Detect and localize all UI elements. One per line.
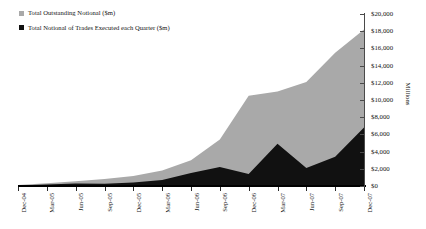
y-axis-tick <box>360 48 365 49</box>
legend-item-trades-executed: Total Notional of Trades Executed each Q… <box>19 25 170 32</box>
x-axis-tick <box>191 187 192 191</box>
y-axis-tick <box>360 66 365 67</box>
y-axis-tick-label: $12,000 <box>371 79 393 86</box>
x-axis-tick <box>76 187 77 191</box>
y-axis-tick-label: $10,000 <box>371 97 393 104</box>
x-axis-tick <box>249 187 250 191</box>
x-axis-tick <box>105 187 106 191</box>
y-axis-tick-label: $8,000 <box>371 114 390 121</box>
y-axis-tick <box>360 100 365 101</box>
x-axis-tick-label: Sep-06 <box>222 193 229 212</box>
x-axis-tick-label: Dec-05 <box>136 193 143 212</box>
x-axis-tick-label: Dec-04 <box>21 193 28 212</box>
x-axis-tick <box>306 187 307 191</box>
y-axis-tick <box>360 169 365 170</box>
y-axis-title: Millions <box>405 82 412 105</box>
x-axis-tick-label: Sep-05 <box>107 193 114 212</box>
y-axis-tick-label: $0 <box>371 183 378 190</box>
y-axis-tick-label: $20,000 <box>371 11 393 18</box>
y-axis-tick <box>360 14 365 15</box>
x-axis-tick <box>278 187 279 191</box>
x-axis-tick <box>364 187 365 191</box>
y-axis-tick-label: $18,000 <box>371 28 393 35</box>
x-axis-tick <box>162 187 163 191</box>
x-axis-line <box>18 185 366 187</box>
legend-item-label: Total Outstanding Notional ($m) <box>28 10 115 17</box>
y-axis-tick <box>360 186 365 187</box>
y-axis-tick <box>360 152 365 153</box>
gray-square-marker-icon <box>19 11 24 16</box>
area-chart: Total Outstanding Notional ($m) Total No… <box>0 0 426 229</box>
y-axis-tick-label: $2,000 <box>371 165 390 172</box>
x-axis-tick-label: Jun-05 <box>78 193 85 211</box>
y-axis-tick <box>360 83 365 84</box>
x-axis-tick-label: Mar-05 <box>49 193 56 213</box>
y-axis-tick-label: $6,000 <box>371 131 390 138</box>
series-canvas <box>18 14 364 186</box>
x-axis-tick <box>133 187 134 191</box>
x-axis-tick-label: Mar-07 <box>280 193 287 213</box>
plot-area <box>18 14 364 186</box>
area-series-outstanding-notional <box>18 29 364 186</box>
x-axis-tick <box>18 187 19 191</box>
x-axis-tick-label: Jun-06 <box>194 193 201 211</box>
x-axis-tick-label: Jun-07 <box>309 193 316 211</box>
y-axis-tick-label: $16,000 <box>371 45 393 52</box>
y-axis-tick <box>360 31 365 32</box>
x-axis-tick <box>47 187 48 191</box>
x-axis-tick-label: Mar-06 <box>165 193 172 213</box>
x-axis-tick <box>335 187 336 191</box>
x-axis-tick-label: Dec-07 <box>367 193 374 212</box>
black-square-marker-icon <box>19 25 24 30</box>
legend-item-outstanding-notional: Total Outstanding Notional ($m) <box>19 10 170 17</box>
y-axis-tick-label: $14,000 <box>371 62 393 69</box>
y-axis-tick <box>360 134 365 135</box>
x-axis-tick-label: Dec-06 <box>251 193 258 212</box>
y-axis-tick <box>360 117 365 118</box>
x-axis-tick <box>220 187 221 191</box>
legend-item-label: Total Notional of Trades Executed each Q… <box>28 25 170 32</box>
chart-legend: Total Outstanding Notional ($m) Total No… <box>19 10 170 39</box>
x-axis-tick-label: Sep-07 <box>338 193 345 212</box>
y-axis-tick-label: $4,000 <box>371 148 390 155</box>
